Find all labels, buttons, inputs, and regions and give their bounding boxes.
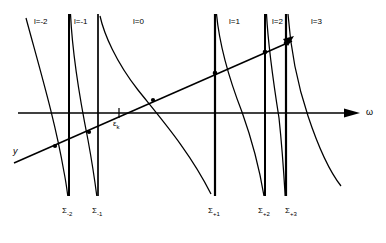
branch-label-l-three: l=3 <box>311 18 322 26</box>
branch-curve-l-one <box>217 14 265 196</box>
x-axis-label-omega: ω <box>366 108 373 117</box>
physics-figure-canvas: l=-2 l=-1 l=0 l=1 l=2 l=3 ω y εk Σ-2 Σ-1… <box>0 0 386 243</box>
epsilon-k-label: εk <box>113 120 120 130</box>
intersection-point <box>87 130 91 134</box>
intersection-point <box>151 98 155 102</box>
sigma-label-minus-2: Σ-2 <box>62 207 72 217</box>
branch-curve-l-minus-2 <box>26 18 68 196</box>
sigma-subscript: +2 <box>263 211 270 217</box>
sigma-subscript: -2 <box>67 211 72 217</box>
sigma-subscript: +3 <box>290 211 297 217</box>
branch-curve-l-two <box>267 14 286 196</box>
sigma-branch-curves-group <box>26 14 341 196</box>
branch-curve-l-zero <box>100 16 211 194</box>
sigma-subscript: -1 <box>97 211 102 217</box>
branch-curve-l-three <box>288 14 341 186</box>
intersection-point <box>263 50 268 55</box>
branch-curve-l-minus-1 <box>71 14 97 196</box>
branch-label-l-zero: l=0 <box>133 18 144 26</box>
plot-vector-graphics <box>0 0 386 243</box>
sigma-label-plus-1: Σ+1 <box>208 207 220 217</box>
asymptote-lines-group <box>69 14 286 196</box>
epsilon-subscript: k <box>117 124 120 130</box>
sigma-label-minus-1: Σ-1 <box>92 207 102 217</box>
branch-label-l-minus-1: l=-1 <box>74 18 88 26</box>
sigma-label-plus-3: Σ+3 <box>285 207 297 217</box>
branch-label-l-one: l=1 <box>229 18 240 26</box>
intersection-point <box>213 71 218 76</box>
x-axis-arrowhead-icon <box>344 109 360 118</box>
sigma-label-plus-2: Σ+2 <box>258 207 270 217</box>
intersection-point <box>284 41 289 46</box>
branch-label-l-two: l=2 <box>272 18 283 26</box>
intersection-point <box>53 144 57 148</box>
line-label-y: y <box>13 147 18 156</box>
sigma-subscript: +1 <box>213 211 220 217</box>
branch-label-l-minus-2: l=-2 <box>34 18 48 26</box>
